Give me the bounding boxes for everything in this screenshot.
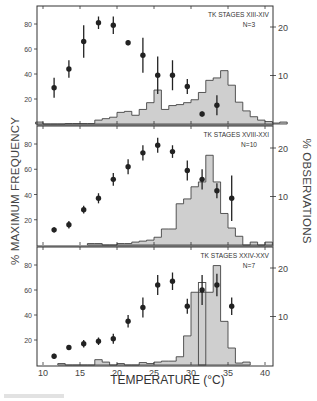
panel-title: TK STAGES XVIII-XXI <box>204 131 270 138</box>
data-point <box>111 336 116 341</box>
y-tick-label-left: 20 <box>24 96 32 103</box>
data-point <box>125 319 130 324</box>
data-point <box>229 196 234 201</box>
data-point <box>51 85 56 90</box>
data-point <box>111 177 116 182</box>
figure-caption-fragment <box>4 394 64 398</box>
x-axis-label: TEMPERATURE (°C) <box>0 373 317 387</box>
data-point <box>214 188 219 193</box>
chart-panel-2: 204060801020TK STAGES XVIII-XXIN=10 <box>24 126 288 246</box>
data-point <box>66 345 71 350</box>
y-tick-label-left: 20 <box>24 217 32 224</box>
data-point <box>199 111 204 116</box>
panel-frame <box>37 247 273 366</box>
y-tick-label-right: 10 <box>278 192 288 202</box>
y-tick-label-left: 80 <box>24 21 32 28</box>
y-tick-label-right: 20 <box>278 144 288 154</box>
data-point <box>81 341 86 346</box>
y-tick-label-left: 40 <box>24 192 32 199</box>
data-point <box>214 103 219 108</box>
panel-sample-size: N=7 <box>243 262 256 269</box>
data-point <box>185 168 190 173</box>
histogram <box>36 71 288 124</box>
y-tick-label-right: 20 <box>278 23 288 33</box>
data-point <box>125 164 130 169</box>
data-point <box>170 73 175 78</box>
y-tick-label-right: 20 <box>278 264 288 274</box>
data-point <box>170 279 175 284</box>
data-point <box>155 143 160 148</box>
data-point <box>96 196 101 201</box>
data-point <box>51 227 56 232</box>
data-point <box>214 282 219 287</box>
chart-panel-1: 204060801020TK STAGES XIII-XIVN=3 <box>24 6 288 125</box>
data-point <box>185 304 190 309</box>
data-point <box>96 20 101 25</box>
panel-sample-size: N=10 <box>241 141 257 148</box>
y-tick-label-right: 10 <box>278 312 288 322</box>
data-point <box>155 282 160 287</box>
panel-sample-size: N=3 <box>243 21 256 28</box>
y-tick-label-left: 60 <box>24 166 32 173</box>
data-point <box>111 23 116 28</box>
data-point <box>170 149 175 154</box>
data-point <box>155 73 160 78</box>
y-axis-label-left: % MAXIMUM FREQUENCY <box>9 116 21 266</box>
y-axis-label-right: % OBSERVATIONS <box>301 116 313 266</box>
y-tick-label-left: 20 <box>24 337 32 344</box>
y-tick-label-left: 80 <box>24 141 32 148</box>
data-point <box>66 66 71 71</box>
chart-panel-3: 20406080102010152025303540TK STAGES XXIV… <box>24 247 288 378</box>
y-tick-label-left: 40 <box>24 71 32 78</box>
panel-frame <box>37 126 273 246</box>
panel-title: TK STAGES XIII-XIV <box>208 11 270 18</box>
data-point <box>51 354 56 359</box>
data-point <box>66 222 71 227</box>
data-point <box>185 84 190 89</box>
y-tick-label-left: 40 <box>24 312 32 319</box>
y-tick-label-left: 60 <box>24 287 32 294</box>
histogram <box>58 266 250 365</box>
data-point <box>199 287 204 292</box>
panel-title: TK STAGES XXIV-XXV <box>201 252 270 259</box>
data-point <box>81 39 86 44</box>
data-point <box>229 304 234 309</box>
data-point <box>140 150 145 155</box>
data-point <box>140 53 145 58</box>
data-point <box>125 40 130 45</box>
data-point <box>81 207 86 212</box>
histogram <box>87 155 272 245</box>
figure-canvas: 204060801020TK STAGES XIII-XIVN=32040608… <box>0 0 317 401</box>
y-tick-label-left: 80 <box>24 262 32 269</box>
data-point <box>96 339 101 344</box>
y-tick-label-left: 60 <box>24 46 32 53</box>
y-tick-label-right: 10 <box>278 71 288 81</box>
data-point <box>199 177 204 182</box>
data-point <box>140 305 145 310</box>
